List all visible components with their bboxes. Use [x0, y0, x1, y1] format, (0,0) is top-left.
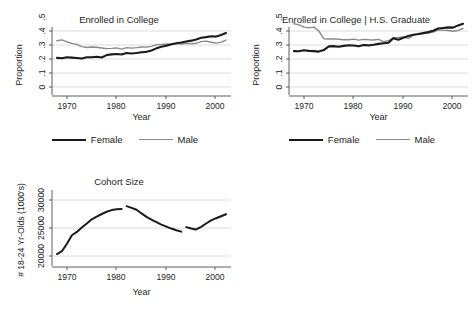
panel-3-ytick-20000: 20000: [36, 244, 46, 268]
legend-label-male: Male: [178, 134, 199, 145]
panel-2-xtick-2000: 2000: [442, 101, 461, 111]
panel-2-plot: 0 .1 .2 .3 .4 .5 1970 1980 1990 2000: [237, 0, 475, 120]
panel-3-xtick-1970: 1970: [57, 272, 76, 282]
panel-1-xtick-2000: 2000: [205, 101, 224, 111]
panel-1-series-female: [57, 33, 226, 58]
panel-3-ytick-25000: 25000: [36, 216, 46, 240]
panel-2-series-male: [294, 24, 463, 42]
panel-3-series-cohort-segment-1: [57, 209, 122, 254]
panel-2-y-axis: 0 .1 .2 .3 .4 .5: [274, 13, 289, 95]
panel-3-plot: 20000 25000 30000 1970 1980 1990 2000: [0, 162, 238, 292]
legend-label-male: Male: [415, 134, 436, 145]
panel-2-ytick-3: .3: [274, 41, 284, 48]
legend-line-male-icon: [139, 139, 173, 140]
panel-1-plot: 0 .1 .2 .3 .4 .5 1970 1980 1990 2000: [0, 0, 238, 120]
panel-3-gridlines: [52, 200, 231, 256]
panel-3-xtick-2000: 2000: [205, 272, 224, 282]
panel-2-xtick-1970: 1970: [294, 101, 313, 111]
panel-cohort-size: Cohort Size # 18-24 Yr-Olds (1000's) 200…: [0, 162, 238, 317]
panel-3-xtick-1990: 1990: [156, 272, 175, 282]
panel-1-series-male: [57, 40, 226, 49]
panel-1-ytick-0: 0: [37, 84, 47, 89]
panel-2-x-axis-label: Year: [289, 112, 468, 122]
panel-1-y-axis: 0 .1 .2 .3 .4 .5: [37, 13, 52, 95]
panel-1-ytick-1: .1: [37, 69, 47, 76]
panel-enrolled-in-college: Enrolled in College Proportion 0 .1 .2 .…: [0, 0, 238, 160]
legend-line-female-icon: [52, 139, 86, 141]
panel-3-xtick-1980: 1980: [106, 272, 125, 282]
panel-2-x-axis: 1970 1980 1990 2000: [289, 96, 468, 111]
legend-entry-female: Female: [52, 134, 123, 145]
panel-2-series-female: [294, 24, 463, 52]
panel-1-x-axis: 1970 1980 1990 2000: [52, 96, 231, 111]
panel-1-ytick-5: .5: [37, 13, 47, 20]
panel-3-ytick-30000: 30000: [36, 188, 46, 212]
panel-2-ytick-4: .4: [274, 27, 284, 34]
panel-2-legend: Female Male: [267, 134, 457, 145]
legend-entry-male: Male: [139, 134, 199, 145]
panel-1-ytick-2: .2: [37, 55, 47, 62]
legend-entry-male: Male: [376, 134, 436, 145]
panel-2-xtick-1990: 1990: [393, 101, 412, 111]
panel-2-ytick-0: 0: [274, 84, 284, 89]
panel-3-x-axis: 1970 1980 1990 2000: [52, 267, 231, 282]
panel-1-ytick-3: .3: [37, 41, 47, 48]
panel-1-ytick-4: .4: [37, 27, 47, 34]
panel-1-xtick-1980: 1980: [106, 101, 125, 111]
legend-line-female-icon: [289, 139, 323, 141]
panel-1-xtick-1970: 1970: [57, 101, 76, 111]
panel-3-x-axis-label: Year: [52, 287, 231, 297]
panel-1-xtick-1990: 1990: [156, 101, 175, 111]
legend-entry-female: Female: [289, 134, 360, 145]
panel-enrolled-in-college-given-hs-graduate: Enrolled in College | H.S. Graduate Prop…: [237, 0, 475, 160]
panel-2-xtick-1980: 1980: [343, 101, 362, 111]
panel-2-ytick-2: .2: [274, 55, 284, 62]
panel-1-x-axis-label: Year: [52, 112, 231, 122]
panel-3-y-axis: 20000 25000 30000: [36, 188, 52, 268]
legend-label-female: Female: [91, 134, 123, 145]
panel-2-ytick-5: .5: [274, 13, 284, 20]
panel-1-legend: Female Male: [30, 134, 220, 145]
panel-3-series-cohort-segment-3: [186, 214, 226, 229]
legend-label-female: Female: [328, 134, 360, 145]
panel-2-ytick-1: .1: [274, 69, 284, 76]
legend-line-male-icon: [376, 139, 410, 140]
